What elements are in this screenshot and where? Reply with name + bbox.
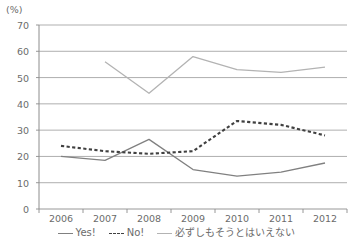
- x-axis-tick-label: 2010: [225, 213, 249, 224]
- legend-item-3[interactable]: 必ずしもそうとはいえない: [157, 228, 295, 238]
- line-chart: (%) 010203040506070 20062007200820092010…: [0, 0, 353, 245]
- legend-item-1[interactable]: Yes!: [58, 228, 96, 238]
- x-axis-tick-label: 2011: [269, 213, 293, 224]
- x-axis-tick-label: 2012: [313, 213, 337, 224]
- series-line-1: [61, 139, 325, 176]
- series-line-2: [61, 121, 325, 154]
- legend-item-2[interactable]: No!: [109, 228, 145, 238]
- legend-item-label: Yes!: [76, 228, 96, 238]
- x-axis-tick-label: 2007: [93, 213, 117, 224]
- chart-legend: Yes!No!必ずしもそうとはいえない: [0, 228, 353, 238]
- x-axis-tick-label: 2006: [49, 213, 73, 224]
- plot-area: [0, 0, 353, 245]
- legend-item-label: No!: [127, 228, 145, 238]
- legend-swatch-icon: [58, 233, 73, 234]
- x-axis-tick-label: 2008: [137, 213, 161, 224]
- x-axis-tick-label: 2009: [181, 213, 205, 224]
- legend-swatch-icon: [109, 233, 124, 234]
- series-line-3: [105, 57, 325, 94]
- legend-swatch-icon: [157, 233, 172, 234]
- legend-item-label: 必ずしもそうとはいえない: [175, 228, 295, 238]
